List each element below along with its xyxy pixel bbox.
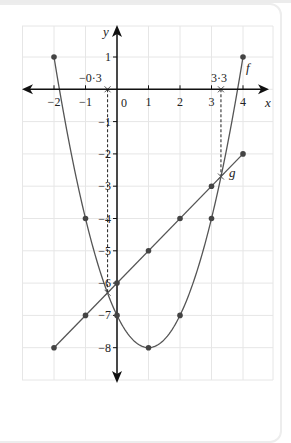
x-axis-label: x — [264, 95, 271, 110]
series-g-point — [240, 151, 246, 157]
grid — [22, 26, 273, 380]
origin-label: 0 — [121, 96, 127, 110]
series-g-point — [83, 313, 89, 319]
series-f-point — [240, 54, 246, 60]
series-f-point — [209, 216, 215, 222]
axes — [22, 25, 269, 383]
x-tick-label: 1 — [146, 95, 152, 109]
y-tick-label: −8 — [98, 341, 111, 355]
y-tick-label: −3 — [98, 179, 111, 193]
tick-labels: −2−112341−1−2−3−4−5−6−7−8 — [48, 50, 246, 355]
y-tick-label: −6 — [98, 276, 111, 290]
root-right-label: 3·3 — [211, 71, 227, 85]
y-tick-label: −7 — [98, 308, 111, 322]
g-label: g — [229, 165, 236, 180]
root-left-label: −0·3 — [79, 71, 102, 85]
y-tick-label: 1 — [105, 50, 111, 64]
x-tick-label: 4 — [240, 95, 246, 109]
x-tick-label: 2 — [177, 95, 183, 109]
series-g-point — [51, 345, 57, 351]
series-g-point — [146, 248, 152, 254]
y-tick-label: −2 — [98, 147, 111, 161]
series-f-point — [146, 345, 152, 351]
y-tick-label: −1 — [98, 115, 111, 129]
x-tick-label: 3 — [209, 95, 215, 109]
y-tick-label: −5 — [98, 244, 111, 258]
series-f-point — [114, 313, 120, 319]
series-f-point — [83, 216, 89, 222]
x-tick-label: −1 — [79, 95, 92, 109]
x-tick-label: −2 — [48, 95, 61, 109]
series-f-point — [177, 313, 183, 319]
series-f-point — [51, 54, 57, 60]
series-g-point — [209, 183, 215, 189]
series-g-point — [114, 280, 120, 286]
y-axis-label: y — [101, 24, 109, 39]
f-label: f — [246, 60, 252, 75]
y-tick-label: −4 — [98, 212, 111, 226]
series-g-point — [177, 216, 183, 222]
